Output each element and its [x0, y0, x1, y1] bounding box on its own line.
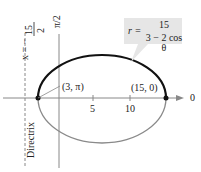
- directrix-label: Directrix: [26, 122, 36, 158]
- vertex-left-label: (3, π): [62, 82, 84, 92]
- vertex-right-label: (15, 0): [131, 83, 158, 93]
- directrix-equation-numerator: 15: [24, 25, 34, 35]
- ellipse-lower-curve: [38, 98, 166, 143]
- polar-axis-arrow-icon: [176, 95, 184, 101]
- equation-denominator: 3 − 2 cos θ: [144, 33, 184, 53]
- vertex-left-leader: [38, 86, 60, 98]
- polar-axis-label: 0: [190, 93, 195, 103]
- directrix-equation-lhs: x = −: [20, 39, 30, 60]
- equation-numerator: 15: [147, 20, 181, 30]
- vertex-right: [164, 96, 169, 101]
- tick-label-10: 10: [125, 104, 135, 114]
- directrix-equation-denominator: 2: [36, 28, 46, 33]
- equation-lhs: r =: [128, 26, 141, 36]
- vertical-axis-label: π/2: [52, 15, 62, 28]
- tick-label-5: 5: [90, 104, 95, 114]
